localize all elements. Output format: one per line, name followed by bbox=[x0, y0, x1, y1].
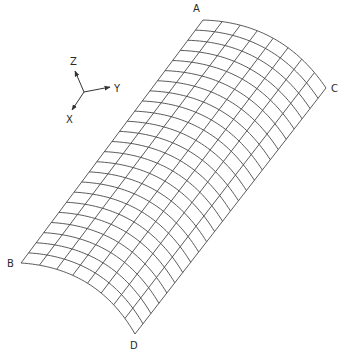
cylindrical-surface-figure: A C B D Z Y X bbox=[0, 0, 344, 357]
mesh-long-line bbox=[39, 22, 222, 266]
mesh-long-line bbox=[21, 20, 203, 263]
y-axis-label: Y bbox=[113, 83, 121, 94]
z-axis-arrow-icon bbox=[75, 71, 84, 92]
surface-mesh-grid bbox=[21, 20, 326, 334]
y-axis-arrow-icon bbox=[84, 87, 110, 92]
x-axis-label: X bbox=[66, 114, 73, 125]
corner-label-a: A bbox=[193, 3, 200, 14]
corner-label-d: D bbox=[130, 340, 138, 351]
corner-label-c: C bbox=[331, 83, 338, 94]
mesh-long-line bbox=[101, 48, 288, 293]
coordinate-axes-triad: Z Y X bbox=[66, 56, 121, 125]
z-axis-label: Z bbox=[70, 56, 77, 67]
corner-label-b: B bbox=[7, 258, 14, 269]
x-axis-arrow-icon bbox=[72, 92, 84, 110]
corner-labels: A C B D bbox=[7, 3, 338, 351]
